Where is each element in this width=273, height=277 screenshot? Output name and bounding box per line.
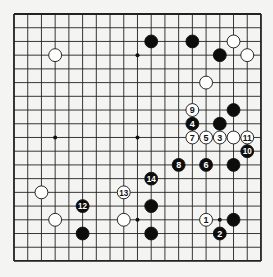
move-number: 14 [147, 174, 156, 184]
numbered-move: 11 [241, 131, 254, 144]
stone [227, 131, 240, 144]
move-number: 12 [78, 201, 87, 211]
star-point [135, 135, 139, 139]
move-number: 4 [190, 119, 195, 129]
numbered-move: 5 [200, 131, 213, 144]
white-stone-icon [49, 49, 62, 62]
stone [213, 49, 226, 62]
black-stone-icon [213, 49, 226, 62]
move-number: 10 [243, 146, 252, 156]
move-number: 13 [119, 188, 128, 198]
numbered-move: 12 [76, 200, 89, 213]
stone [241, 49, 254, 62]
white-stone-icon [117, 213, 130, 226]
numbered-move: 3 [213, 131, 226, 144]
numbered-move: 2 [213, 227, 226, 240]
numbered-move: 10 [241, 145, 254, 158]
move-number: 8 [176, 160, 181, 170]
numbered-move: 7 [186, 131, 199, 144]
stone [49, 213, 62, 226]
white-stone-icon [49, 213, 62, 226]
move-number: 11 [243, 133, 252, 143]
white-stone-icon [35, 186, 48, 199]
black-stone-icon [145, 35, 158, 48]
stone [227, 213, 240, 226]
stone [227, 158, 240, 171]
move-number: 5 [204, 133, 209, 143]
numbered-move: 8 [172, 158, 185, 171]
star-point [53, 135, 57, 139]
numbered-move: 13 [117, 186, 130, 199]
white-stone-icon [227, 35, 240, 48]
stone [145, 200, 158, 213]
stone [145, 35, 158, 48]
star-point [135, 218, 139, 222]
go-board: 1234567891011121314 [0, 0, 273, 277]
stone [186, 35, 199, 48]
white-stone-icon [241, 49, 254, 62]
move-number: 2 [217, 229, 222, 239]
black-stone-icon [76, 227, 89, 240]
black-stone-icon [227, 213, 240, 226]
black-stone-icon [227, 158, 240, 171]
move-number: 9 [190, 105, 195, 115]
numbered-move: 1 [200, 213, 213, 226]
stone [35, 186, 48, 199]
stone [145, 227, 158, 240]
stone [117, 213, 130, 226]
numbered-move: 9 [186, 104, 199, 117]
black-stone-icon [186, 35, 199, 48]
move-number: 1 [204, 215, 209, 225]
white-stone-icon [200, 76, 213, 89]
stone [200, 76, 213, 89]
stone [213, 117, 226, 130]
star-point [135, 53, 139, 57]
numbered-move: 4 [186, 117, 199, 130]
stone [76, 227, 89, 240]
black-stone-icon [145, 200, 158, 213]
stone [227, 35, 240, 48]
black-stone-icon [145, 227, 158, 240]
move-number: 6 [204, 160, 209, 170]
stone [49, 49, 62, 62]
numbered-move: 6 [200, 158, 213, 171]
move-number: 3 [217, 133, 222, 143]
black-stone-icon [227, 104, 240, 117]
star-point [218, 218, 222, 222]
black-stone-icon [213, 117, 226, 130]
white-stone-icon [227, 131, 240, 144]
move-number: 7 [190, 133, 195, 143]
stone [227, 104, 240, 117]
numbered-move: 14 [145, 172, 158, 185]
